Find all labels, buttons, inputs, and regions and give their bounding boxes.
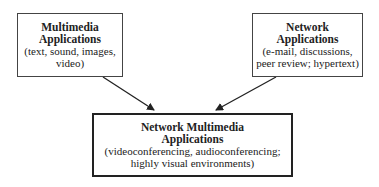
network-applications-box: Network Applications (e-mail, discussion… [252,13,363,77]
multimedia-applications-box: Multimedia Applications (text, sound, im… [17,13,123,77]
node-description: (e-mail, discussions, peer review; hyper… [256,45,359,69]
title-line: Multimedia [39,21,101,33]
title-line: Network Multimedia [141,121,244,133]
desc-line: highly visual environments) [105,157,281,169]
title-line: Applications [39,33,101,45]
node-title: Multimedia Applications [39,21,101,45]
title-line: Network [277,21,339,33]
desc-line: video) [24,57,115,69]
node-description: (text, sound, images, video) [24,45,115,69]
network-multimedia-applications-box: Network Multimedia Applications (videoco… [92,113,293,177]
desc-line: (text, sound, images, [24,45,115,57]
arrow-multimedia-to-network-multimedia [103,77,154,110]
desc-line: (e-mail, discussions, [256,45,359,57]
desc-line: (videoconferencing, audioconferencing; [105,145,281,157]
node-description: (videoconferencing, audioconferencing; h… [105,145,281,169]
node-title: Network Multimedia Applications [141,121,244,145]
title-line: Applications [141,133,244,145]
arrow-network-to-network-multimedia [216,77,276,110]
node-title: Network Applications [277,21,339,45]
title-line: Applications [277,33,339,45]
desc-line: peer review; hypertext) [256,57,359,69]
